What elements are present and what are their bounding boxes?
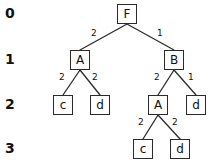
edge-weight-A2-c: 2 [138, 118, 144, 127]
tree-node-left-A: A [70, 50, 90, 70]
tree-edge-F-A [80, 24, 127, 50]
tree-node-bottom-d: d [170, 139, 190, 159]
edge-weight-A-c: 2 [59, 73, 65, 82]
edge-weight-B-A: 2 [154, 73, 160, 82]
tree-edge-B-A [158, 70, 174, 95]
tree-node-label: d [192, 99, 200, 111]
tree-node-right-d: d [186, 95, 206, 115]
tree-node-mid-A: A [148, 95, 168, 115]
tree-node-label: B [170, 54, 178, 66]
edge-weight-B-d: 1 [188, 73, 194, 82]
tree-node-label: d [96, 99, 104, 111]
tree-node-label: c [60, 99, 67, 111]
tree-edge-A2-c [143, 115, 158, 139]
tree-edges-layer [0, 0, 214, 162]
tree-node-left-d: d [90, 95, 110, 115]
tree-node-label: A [154, 99, 162, 111]
edge-weight-A-d: 2 [92, 73, 98, 82]
tree-node-bottom-c: c [133, 139, 153, 159]
edge-weight-F-B: 1 [157, 29, 163, 38]
tree-node-right-B: B [164, 50, 184, 70]
tree-node-root-F: F [117, 4, 137, 24]
tree-node-label: A [76, 54, 84, 66]
tree-node-label: d [176, 143, 184, 155]
tree-diagram: 0123 FABcdAdcd 21222122 [0, 0, 214, 162]
edge-weight-A2-d: 2 [172, 118, 178, 127]
tree-node-left-c: c [53, 95, 73, 115]
tree-edge-F-B [127, 24, 174, 50]
tree-edge-A-c [63, 70, 80, 95]
tree-node-label: F [124, 8, 131, 20]
tree-node-label: c [140, 143, 147, 155]
edge-weight-F-A: 2 [91, 29, 97, 38]
